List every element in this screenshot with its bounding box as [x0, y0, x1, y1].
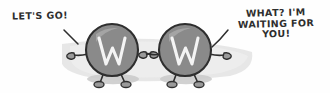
right-speech-caption: WHAT? I'M WAITING FOR YOU!	[222, 7, 330, 42]
left-character-foot-right	[121, 82, 131, 88]
right-character-foot-right	[194, 82, 204, 88]
comic-panel: LET'S GO! WHAT? I'M WAITING FOR YOU!	[0, 0, 330, 93]
left-speech-caption: LET'S GO!	[12, 10, 68, 22]
left-character-hand-left	[67, 53, 75, 60]
right-character-hand-left	[139, 52, 147, 59]
right-character-hand-right	[223, 53, 231, 60]
left-character-foot-left	[94, 82, 104, 88]
left-speech-tail	[64, 30, 78, 44]
right-character-foot-left	[167, 82, 177, 88]
